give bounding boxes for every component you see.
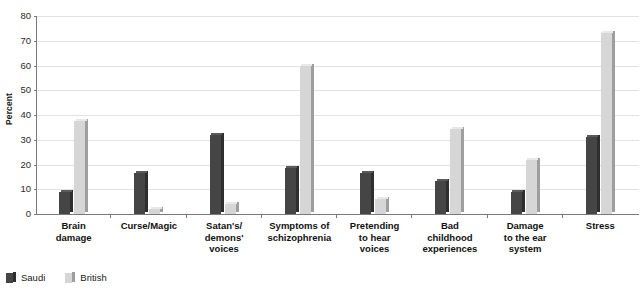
bar-face [450, 129, 461, 214]
bar-top [362, 171, 373, 173]
bar-saudi [210, 135, 224, 214]
bar-group [337, 16, 412, 214]
bar-face [300, 66, 311, 215]
bar-face [601, 33, 612, 214]
bar-group [262, 16, 337, 214]
category-tick [336, 214, 337, 218]
bar-top [226, 202, 237, 204]
bar-british [225, 204, 239, 214]
category-labels: Brain damageCurse/MagicSatan's/ demons' … [36, 220, 638, 255]
bar-side [70, 190, 73, 212]
bar-face [511, 192, 522, 214]
bar-side [296, 166, 299, 212]
bar-saudi [285, 168, 299, 214]
category-label: Satan's/ demons' voices [187, 220, 262, 255]
bar-top [527, 158, 538, 160]
bar-face [586, 137, 597, 214]
bar-british [74, 121, 88, 214]
chart-legend: SaudiBritish [6, 272, 107, 283]
bar-face [285, 168, 296, 214]
bar-top [136, 171, 147, 173]
category-tick [487, 214, 488, 218]
bar-pair [134, 173, 163, 214]
bar-top [151, 207, 162, 209]
category-tick [411, 214, 412, 218]
bar-face [225, 204, 236, 214]
category-label: Bad childhood experiences [412, 220, 487, 255]
category-tick [261, 214, 262, 218]
bar-side [221, 133, 224, 212]
y-axis-tick-mark [34, 214, 37, 215]
category-label: Brain damage [36, 220, 111, 255]
bar-face [526, 160, 537, 214]
bar-top [301, 64, 312, 66]
bar-saudi [134, 173, 148, 214]
category-tick [186, 214, 187, 218]
bar-face [74, 121, 85, 214]
bar-side [537, 158, 540, 212]
bar-top [437, 179, 448, 181]
bar-pair [210, 135, 239, 214]
bar-top [76, 119, 87, 121]
bar-face [149, 209, 160, 214]
bar-side [145, 171, 148, 212]
category-label: Curse/Magic [111, 220, 186, 255]
y-axis-tick-label: 10 [5, 183, 31, 194]
bar-saudi [59, 192, 73, 214]
bar-saudi [360, 173, 374, 214]
bar-british [526, 160, 540, 214]
bar-side [461, 127, 464, 212]
bar-pair [285, 66, 314, 215]
bar-face [210, 135, 221, 214]
legend-swatch-icon [65, 272, 75, 283]
bar-side [85, 119, 88, 212]
bar-side [612, 31, 615, 212]
bar-chart: Percent 01020304050607080 Brain damageCu… [0, 0, 642, 296]
bar-group [412, 16, 487, 214]
y-axis-tick-label: 70 [5, 35, 31, 46]
legend-item[interactable]: British [65, 272, 106, 283]
bar-pair [511, 160, 540, 214]
bar-side [522, 190, 525, 212]
bar-top [512, 190, 523, 192]
category-tick [110, 214, 111, 218]
bar-top [377, 197, 388, 199]
bar-face [435, 181, 446, 214]
bar-pair [586, 33, 615, 214]
bar-face [375, 199, 386, 214]
bar-pair [59, 121, 88, 214]
category-tick [562, 214, 563, 218]
bar-side [446, 179, 449, 212]
y-axis-tick-label: 50 [5, 84, 31, 95]
y-axis-tick-label: 80 [5, 10, 31, 21]
y-axis-tick-label: 20 [5, 159, 31, 170]
bar-top [602, 31, 613, 33]
y-axis-tick-label: 40 [5, 109, 31, 120]
bar-saudi [586, 137, 600, 214]
bar-top [61, 190, 72, 192]
bar-side [311, 64, 314, 213]
bar-face [134, 173, 145, 214]
bar-group [111, 16, 186, 214]
bar-top [211, 133, 222, 135]
bar-british [300, 66, 314, 215]
bar-saudi [511, 192, 525, 214]
category-label: Stress [563, 220, 638, 255]
bar-top [587, 135, 598, 137]
bar-british [450, 129, 464, 214]
bar-top [286, 166, 297, 168]
legend-item[interactable]: Saudi [6, 272, 45, 283]
category-label: Pretending to hear voices [337, 220, 412, 255]
bar-face [59, 192, 70, 214]
y-axis-tick-label: 60 [5, 60, 31, 71]
legend-label: Saudi [21, 272, 45, 283]
bar-group [488, 16, 563, 214]
y-axis-tick-label: 30 [5, 134, 31, 145]
bar-side [371, 171, 374, 212]
bar-british [375, 199, 389, 214]
bar-saudi [435, 181, 449, 214]
category-label: Damage to the ear system [488, 220, 563, 255]
legend-swatch-icon [6, 272, 16, 283]
bar-pair [360, 173, 389, 214]
bar-top [452, 127, 463, 129]
